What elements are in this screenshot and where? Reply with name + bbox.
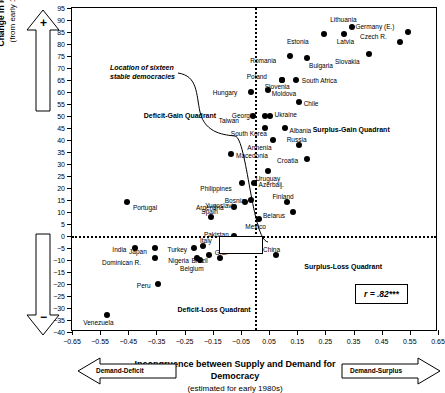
y-tick-label: 15 <box>57 197 65 204</box>
left-arrow-label: Demand-Deficit <box>96 367 144 374</box>
y-axis-title: Change in level of Democracy (from early… <box>0 0 18 96</box>
annotation-line-2: stable democracies <box>110 73 175 80</box>
y-tick-label: 20 <box>57 185 65 192</box>
y-tick-label: 65 <box>57 77 65 84</box>
y-tick-label: 25 <box>57 173 65 180</box>
y-tick-label: −10 <box>53 257 65 264</box>
up-arrow-label: + <box>40 16 47 30</box>
x-tick-label: 0.35 <box>347 338 361 345</box>
x-tick-label: −0.15 <box>204 338 222 345</box>
annotation-line-1: Location of sixteen <box>110 64 174 71</box>
stable-democracies-box <box>219 236 263 254</box>
x-tick-label: −0.05 <box>232 338 250 345</box>
x-tick-label: 0.15 <box>290 338 304 345</box>
y-axis-title-main: Change in level of Democracy <box>0 0 6 46</box>
y-tick-label: 90 <box>57 17 65 24</box>
y-tick-label: 55 <box>57 101 65 108</box>
y-tick-label: −35 <box>53 317 65 324</box>
y-tick-label: 5 <box>61 221 65 228</box>
x-tick-label: 0.45 <box>375 338 389 345</box>
y-tick-label: 30 <box>57 161 65 168</box>
y-tick-label: −30 <box>53 305 65 312</box>
y-tick-label: 50 <box>57 113 65 120</box>
y-axis-title-sub: (from early 1980s to late 1990s) <box>8 0 17 42</box>
y-tick-label: 10 <box>57 209 65 216</box>
x-tick-label: 0.65 <box>431 338 445 345</box>
y-tick-label: −40 <box>53 329 65 336</box>
x-tick-label: −0.25 <box>176 338 194 345</box>
x-tick-label: 0.55 <box>403 338 417 345</box>
y-tick-label: 80 <box>57 41 65 48</box>
stable-democracies-annotation: Location of sixteen stable democracies <box>110 63 175 81</box>
x-tick-label: −0.45 <box>119 338 137 345</box>
y-tick-label: 70 <box>57 65 65 72</box>
x-tick-label: −0.65 <box>63 338 81 345</box>
plot-area: 95908580757065605550454035302520151050−5… <box>71 7 437 331</box>
x-tick-label: 0.25 <box>319 338 333 345</box>
y-tick-label: 85 <box>57 29 65 36</box>
y-tick-label: 35 <box>57 149 65 156</box>
y-tick-label: 75 <box>57 53 65 60</box>
correlation-badge: r = .82*** <box>355 284 408 304</box>
x-tick <box>438 330 439 335</box>
x-tick-label: 0.05 <box>262 338 276 345</box>
y-tick-label: 45 <box>57 125 65 132</box>
y-tick-label: 60 <box>57 89 65 96</box>
right-arrow-label: Demand-Surplus <box>350 367 402 374</box>
y-tick-label: 0 <box>61 233 65 240</box>
x-axis-title-sub: (estimated for early 1980s) <box>187 384 282 393</box>
y-tick-label: −20 <box>53 281 65 288</box>
x-tick-label: −0.55 <box>91 338 109 345</box>
y-tick-label: 40 <box>57 137 65 144</box>
y-tick-label: −15 <box>53 269 65 276</box>
down-arrow-label: − <box>40 310 47 324</box>
y-tick-label: 95 <box>57 5 65 12</box>
figure-root: Change in level of Democracy (from early… <box>0 0 445 393</box>
y-tick-label: −5 <box>57 245 65 252</box>
y-tick-label: −25 <box>53 293 65 300</box>
x-tick-label: −0.35 <box>148 338 166 345</box>
